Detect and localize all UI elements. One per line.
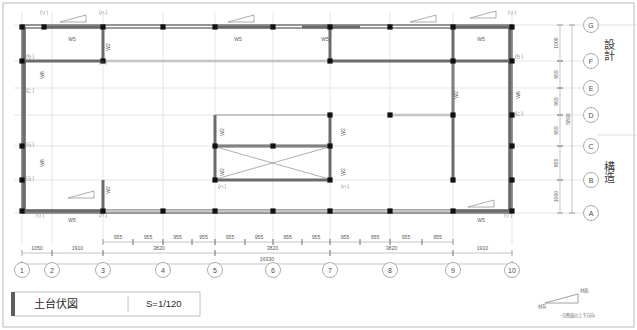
- beam-label: W6: [515, 91, 521, 99]
- grid-bubble-col-5[interactable]: 5: [208, 263, 223, 278]
- grid-bubble-label: B: [589, 177, 594, 184]
- grid-bubble-label: 3: [101, 267, 105, 274]
- column-node: [327, 112, 332, 117]
- dimension-text-tier1: 955: [312, 234, 321, 240]
- grid-bubble-row-E[interactable]: E: [584, 81, 599, 96]
- beam-label: W2: [219, 128, 225, 136]
- title-block: 土台伏図 S=1/120: [11, 292, 200, 316]
- node-mark: (リ): [36, 213, 45, 218]
- node-mark: (ハ): [341, 184, 350, 189]
- dimension-text-tier2: 3820: [386, 245, 398, 251]
- dimension-text-tier1: 955: [371, 234, 380, 240]
- grid-bubble-label: F: [589, 58, 593, 65]
- column-node: [19, 58, 24, 63]
- grid-bubble-col-6[interactable]: 6: [266, 263, 281, 278]
- legend-lower-label: 材背: [538, 303, 547, 309]
- dimension-text-tier1: 955: [283, 234, 292, 240]
- node-mark: (ハ): [99, 60, 108, 65]
- column-node: [270, 24, 275, 29]
- column-node: [450, 208, 455, 213]
- grid-bubble-label: C: [588, 143, 593, 150]
- column-node: [387, 24, 392, 29]
- grid-bubble-label: 9: [451, 267, 455, 274]
- node-mark: (リ): [508, 10, 517, 15]
- dimension-text-v-tier1: 955: [553, 159, 559, 168]
- column-node: [509, 143, 514, 148]
- grid-bubble-label: 1: [20, 267, 24, 274]
- node-mark: (ハ): [99, 10, 108, 15]
- beam-label: W2: [219, 168, 225, 176]
- legend-upper-label: 材面: [580, 287, 589, 294]
- dimension-text-v-tier1: 1000: [553, 191, 559, 203]
- structural-plan-canvas: 9559559559559559559559559559559559551050…: [0, 0, 637, 330]
- column-node: [327, 177, 332, 182]
- grid-bubble-label: A: [589, 210, 594, 217]
- beam-label: W5: [68, 217, 76, 223]
- column-node: [19, 177, 24, 182]
- grid-bubble-col-8[interactable]: 8: [383, 263, 398, 278]
- dimension-text-overall: 16330: [260, 256, 275, 262]
- node-mark: (ハ): [218, 184, 227, 189]
- grid-bubble-label: 2: [50, 267, 54, 274]
- column-node: [509, 58, 514, 63]
- beam-label: W5: [68, 36, 76, 42]
- grid-bubble-label: 5: [213, 267, 217, 274]
- dimension-text-tier1: 955: [226, 234, 235, 240]
- beam-label: W2: [105, 43, 111, 51]
- beam-label: W5: [477, 36, 485, 42]
- column-node: [212, 143, 217, 148]
- dimension-text-tier2: 1050: [31, 245, 43, 251]
- side-label-design: 設計: [603, 38, 616, 62]
- dimension-text-tier2: 3820: [267, 245, 279, 251]
- column-node: [387, 112, 392, 117]
- dimension-text-tier1: 955: [114, 234, 123, 240]
- column-node: [450, 58, 455, 63]
- beam-label: W5: [477, 217, 485, 223]
- column-node: [270, 143, 275, 148]
- dimension-text-v-tier1: 955: [553, 126, 559, 135]
- column-node: [19, 208, 24, 213]
- column-node: [327, 58, 332, 63]
- grid-bubble-row-B[interactable]: B: [584, 173, 599, 188]
- column-node: [450, 177, 455, 182]
- grid-bubble-label: E: [589, 85, 594, 92]
- grid-bubble-row-G[interactable]: G: [584, 18, 599, 33]
- grid-bubble-label: 4: [161, 267, 165, 274]
- grid-bubble-col-3[interactable]: 3: [96, 263, 111, 278]
- column-node: [450, 112, 455, 117]
- column-node: [327, 143, 332, 148]
- grid-bubble-row-D[interactable]: D: [584, 108, 599, 123]
- column-node: [327, 24, 332, 29]
- grid-bubble-row-C[interactable]: C: [584, 139, 599, 154]
- dimension-text-v-overall: 5830: [565, 113, 571, 125]
- grid-bubble-col-7[interactable]: 7: [323, 263, 338, 278]
- grid-bubble-label: 8: [388, 267, 392, 274]
- grid-bubble-col-2[interactable]: 2: [45, 263, 60, 278]
- dimension-text-tier2: 1910: [477, 245, 489, 251]
- grid-bubble-col-10[interactable]: 10: [505, 263, 520, 278]
- column-node: [509, 112, 514, 117]
- beam-label: W6: [39, 159, 45, 167]
- column-node: [19, 24, 24, 29]
- beam-label: W6: [39, 71, 45, 79]
- column-node: [19, 143, 24, 148]
- dimension-text-tier1: 955: [433, 234, 442, 240]
- column-node: [327, 208, 332, 213]
- dimension-text-tier1: 955: [341, 234, 350, 240]
- grid-bubble-col-1[interactable]: 1: [15, 263, 30, 278]
- column-node: [387, 208, 392, 213]
- grid-bubble-col-9[interactable]: 9: [446, 263, 461, 278]
- beam-label: W2: [453, 91, 459, 99]
- dimension-text-v-tier1: 955: [553, 70, 559, 79]
- title-block-tab: [11, 292, 15, 316]
- column-node: [212, 24, 217, 29]
- beam-label: W5: [234, 36, 242, 42]
- grid-bubble-col-4[interactable]: 4: [156, 263, 171, 278]
- grid-bubble-row-F[interactable]: F: [584, 54, 599, 69]
- dimension-text-tier2: 1910: [72, 245, 84, 251]
- grid-bubble-row-A[interactable]: A: [584, 206, 599, 221]
- drawing-sheet: 9559559559559559559559559559559559551050…: [0, 0, 637, 330]
- side-label-structure: 構造: [603, 161, 616, 183]
- dimension-text-tier1: 955: [199, 234, 208, 240]
- dimension-text-v-tier1: 1000: [553, 37, 559, 49]
